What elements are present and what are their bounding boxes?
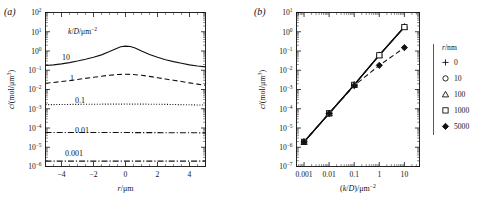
svg-text:−2: −2 [89, 170, 97, 179]
svg-text:101: 101 [31, 27, 42, 37]
svg-text:0.001: 0.001 [296, 170, 313, 179]
curve-label-0.01: 0.01 [75, 126, 89, 135]
svg-text:−4: −4 [57, 170, 65, 179]
svg-text:0.1: 0.1 [349, 170, 359, 179]
curve-label-10: 10 [62, 53, 70, 62]
svg-text:100: 100 [31, 46, 42, 56]
panel-b-legend-title: r/nm [442, 43, 457, 52]
panel-b-xlabel: (k/D)/μm−2 [340, 183, 376, 193]
svg-text:10−5: 10−5 [28, 142, 42, 152]
legend-label-r100: 100 [454, 90, 466, 99]
svg-text:10−7: 10−7 [279, 161, 293, 171]
svg-text:10−1: 10−1 [28, 65, 42, 75]
svg-text:10−3: 10−3 [279, 84, 293, 94]
data-point-r1000-1 [377, 53, 382, 58]
svg-text:10−6: 10−6 [279, 142, 293, 152]
legend-label-r5000: 5000 [454, 122, 469, 131]
svg-text:4: 4 [188, 170, 192, 179]
panel-a-plot: 10210110010−110−210−310−410−510−6−4−2024… [0, 0, 250, 212]
svg-text:10−3: 10−3 [28, 104, 42, 114]
legend-label-r10: 10 [454, 74, 462, 83]
panel-b-plot: r/nm01010010005000 10110010−110−210−310−… [250, 0, 501, 212]
panel-a-ylabel: c/(mol/μm3) [6, 70, 16, 110]
legend-label-r1000: 1000 [454, 106, 469, 115]
curve-label-0.001: 0.001 [65, 149, 83, 158]
svg-text:2: 2 [156, 170, 160, 179]
curve-label-0.1: 0.1 [75, 96, 85, 105]
svg-text:10−2: 10−2 [28, 84, 42, 94]
svg-text:100: 100 [282, 27, 293, 37]
svg-text:10−1: 10−1 [279, 46, 293, 56]
legend-marker-r1000 [443, 108, 448, 113]
legend-marker-r0 [442, 59, 448, 65]
panel-a-xlabel: r/μm [118, 184, 135, 193]
svg-text:0: 0 [124, 170, 128, 179]
svg-text:101: 101 [282, 7, 293, 17]
curve-kd-0.1 [46, 104, 206, 105]
panel-b: (b) r/nm01010010005000 10110010−110−210−… [250, 0, 501, 212]
panel-a: (a) 10210110010−110−210−310−410−510−6−4−… [0, 0, 250, 212]
svg-text:10−6: 10−6 [28, 161, 42, 171]
legend-marker-r100 [442, 91, 448, 97]
data-point-r1000-10 [402, 24, 407, 29]
legend-marker-r10 [443, 76, 448, 81]
series-line-r5000 [304, 48, 404, 142]
curve-label-1: 1 [70, 74, 74, 83]
svg-text:0.01: 0.01 [322, 170, 335, 179]
svg-text:10−4: 10−4 [28, 123, 42, 133]
data-point-r5000-10 [401, 45, 407, 51]
svg-text:102: 102 [31, 7, 42, 17]
svg-text:10−4: 10−4 [279, 104, 293, 114]
panel-a-legend-title: k/D/μm−2 [68, 26, 97, 36]
svg-text:10−2: 10−2 [279, 65, 293, 75]
legend-marker-r5000 [442, 123, 448, 129]
svg-text:10−5: 10−5 [279, 123, 293, 133]
svg-text:1: 1 [377, 170, 381, 179]
svg-text:10: 10 [401, 170, 409, 179]
figure-container: (a) 10210110010−110−210−310−410−510−6−4−… [0, 0, 501, 212]
panel-b-ylabel: c/(mol/μm3) [257, 70, 267, 110]
legend-label-r0: 0 [454, 58, 458, 67]
